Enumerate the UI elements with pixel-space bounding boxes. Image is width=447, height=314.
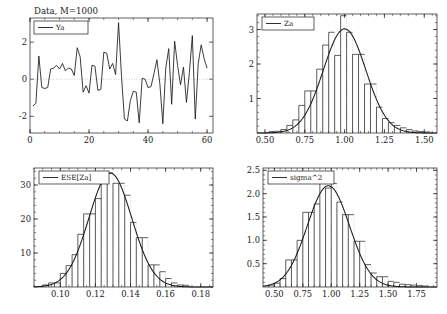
za-histogram-chart: 0.500.751.001.251.50123Za [223, 0, 447, 156]
legend-ya: Ya [34, 21, 88, 34]
x-tick-label: 1.50 [415, 135, 434, 145]
y-tick-label: 1.0 [247, 235, 260, 245]
legend-label: ESE[Za] [61, 173, 92, 182]
y-tick-label: 0.5 [247, 259, 260, 269]
y-tick-label: -2 [19, 111, 27, 121]
plot-frame [34, 168, 213, 287]
x-axis: 0.500.751.001.251.501.75 [265, 168, 434, 299]
x-tick-label: 0.10 [51, 289, 70, 299]
y-tick-label: 3 [249, 25, 254, 35]
x-tick-label: 0.75 [295, 135, 314, 145]
x-tick-label: 40 [143, 135, 154, 145]
x-tick-label: 1.25 [375, 135, 394, 145]
x-tick-label: 0.18 [191, 289, 210, 299]
legend-label: Ya [55, 23, 65, 32]
y-tick-label: 10 [20, 248, 31, 258]
x-axis: 0.500.751.001.251.50 [256, 14, 434, 145]
legend-label: Za [284, 19, 294, 28]
series-line-ya [33, 23, 207, 124]
legend-ese-za: ESE[Za] [39, 171, 109, 184]
y-tick-label: 20 [20, 214, 31, 224]
panel-data-series: Data, M=1000020406020-2Ya [0, 0, 223, 156]
x-tick-label: 1.50 [379, 289, 398, 299]
histogram-bars [43, 173, 189, 287]
ese-za-histogram-chart: 0.100.120.140.160.18102030ESE[Za] [0, 156, 223, 314]
y-axis: 102030 [20, 171, 213, 287]
data-series-chart: Data, M=1000020406020-2Ya [0, 0, 223, 156]
y-axis: 123 [249, 16, 437, 126]
x-tick-label: 0.50 [265, 289, 284, 299]
histogram-bars [269, 174, 428, 287]
x-tick-label: 20 [84, 135, 95, 145]
x-tick-label: 0.75 [293, 289, 312, 299]
panel-ese-za-histogram: 0.100.120.140.160.18102030ESE[Za] [0, 156, 223, 314]
y-tick-label: 0 [22, 74, 27, 84]
plot-frame [257, 14, 437, 133]
panel-title: Data, M=1000 [34, 6, 98, 16]
x-tick-label: 1.75 [407, 289, 426, 299]
fitted-density-curve [263, 186, 437, 287]
fitted-density-curve [34, 173, 213, 287]
y-tick-label: 1 [249, 94, 254, 104]
y-tick-label: 1.5 [247, 212, 260, 222]
x-tick-label: 0.50 [256, 135, 275, 145]
y-tick-label: 2.5 [247, 165, 260, 175]
x-tick-label: 60 [202, 135, 213, 145]
legend-sigma-squared: sigma^2 [268, 171, 334, 184]
x-tick-label: 1.25 [350, 289, 369, 299]
x-tick-label: 1.00 [335, 135, 354, 145]
legend-label: sigma^2 [290, 173, 322, 182]
y-tick-label: 2 [22, 37, 27, 47]
y-tick-label: 30 [20, 180, 31, 190]
x-tick-label: 0.12 [86, 289, 105, 299]
y-tick-label: 2 [249, 59, 254, 69]
y-tick-label: 2.0 [247, 189, 260, 199]
x-tick-label: 0.16 [156, 289, 175, 299]
legend-za: Za [262, 17, 314, 30]
x-tick-label: 0 [27, 135, 32, 145]
x-tick-label: 0.14 [121, 289, 140, 299]
panel-za-histogram: 0.500.751.001.251.50123Za [223, 0, 447, 156]
histogram-bars [269, 16, 430, 133]
figure-canvas: Data, M=1000020406020-2Ya 0.500.751.001.… [0, 0, 447, 314]
x-tick-label: 1.00 [322, 289, 341, 299]
fitted-density-curve [257, 29, 437, 133]
sigma-squared-histogram-chart: 0.500.751.001.251.501.750.51.01.52.02.5s… [223, 156, 447, 314]
panel-sigma-squared-histogram: 0.500.751.001.251.501.750.51.01.52.02.5s… [223, 156, 447, 314]
